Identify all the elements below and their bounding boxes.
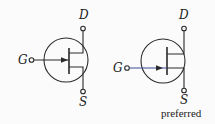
jfet-symbols-figure: D G S D G S preferred [0, 0, 215, 124]
jfet-symbol-left [29, 26, 88, 94]
jfet-symbol-right [125, 26, 187, 93]
drain-label-left: D [78, 8, 89, 22]
gate-label-left: G [18, 53, 28, 67]
source-label-left: S [79, 95, 87, 109]
preferred-caption: preferred [161, 107, 202, 119]
drain-label-right: D [178, 8, 189, 22]
gate-label-right: G [113, 61, 123, 75]
source-label-right: S [180, 93, 188, 107]
